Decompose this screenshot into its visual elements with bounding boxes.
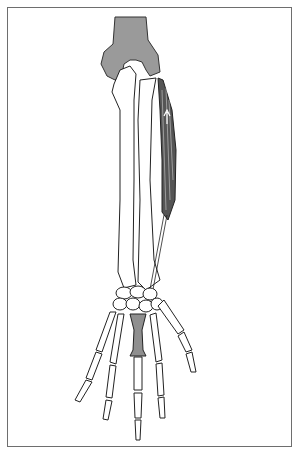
radius	[138, 78, 160, 290]
highlighted-metacarpal	[130, 314, 146, 356]
carpal-bones	[113, 286, 163, 312]
muscle-belly	[158, 78, 176, 220]
ulna	[112, 66, 136, 288]
anatomical-illustration	[0, 0, 299, 454]
